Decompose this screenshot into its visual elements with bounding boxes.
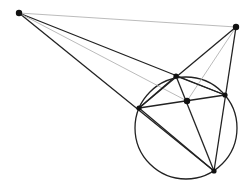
- point-Q: [211, 168, 216, 173]
- segment-PQ: [139, 108, 214, 171]
- point-B: [233, 24, 239, 30]
- point-P: [136, 105, 141, 110]
- point-C: [173, 73, 178, 78]
- diagram-canvas: [0, 0, 252, 191]
- segment-CQ: [176, 76, 214, 171]
- point-A: [16, 10, 22, 16]
- circle: [135, 77, 237, 179]
- segment-AQ: [19, 13, 214, 171]
- point-R: [222, 92, 227, 97]
- geometry-diagram: [0, 0, 252, 191]
- segment-AB: [19, 13, 236, 27]
- point-M: [184, 98, 190, 104]
